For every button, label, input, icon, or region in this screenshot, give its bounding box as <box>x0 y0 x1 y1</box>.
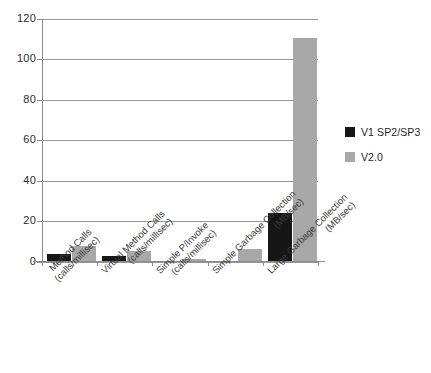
legend-label: V1 SP2/SP3 <box>361 126 420 138</box>
y-tick-mark-80 <box>37 100 42 101</box>
x-category-label: Method Calls(calls/millisec) <box>44 226 101 283</box>
x-tick-mark <box>208 262 209 266</box>
legend-item[interactable]: V1 SP2/SP3 <box>345 122 431 141</box>
legend-label: V2.0 <box>361 151 383 163</box>
bar-chart: 020406080100120 Method Calls(calls/milli… <box>0 0 431 373</box>
legend-item[interactable]: V2.0 <box>345 147 431 166</box>
x-tick-mark <box>318 262 319 266</box>
x-tick-mark <box>42 262 43 266</box>
legend-swatch-icon <box>345 127 355 137</box>
y-tick-mark-100 <box>37 59 42 60</box>
y-tick-mark-40 <box>37 181 42 182</box>
x-tick-mark <box>263 262 264 266</box>
legend-swatch-icon <box>345 152 355 162</box>
y-tick-mark-120 <box>37 19 42 20</box>
y-tick-mark-60 <box>37 140 42 141</box>
x-tick-mark <box>97 262 98 266</box>
chart-legend: V1 SP2/SP3V2.0 <box>345 122 431 172</box>
x-tick-mark <box>152 262 153 266</box>
y-tick-mark-20 <box>37 221 42 222</box>
x-axis-labels: Method Calls(calls/millisec)Virtual Meth… <box>0 0 431 373</box>
